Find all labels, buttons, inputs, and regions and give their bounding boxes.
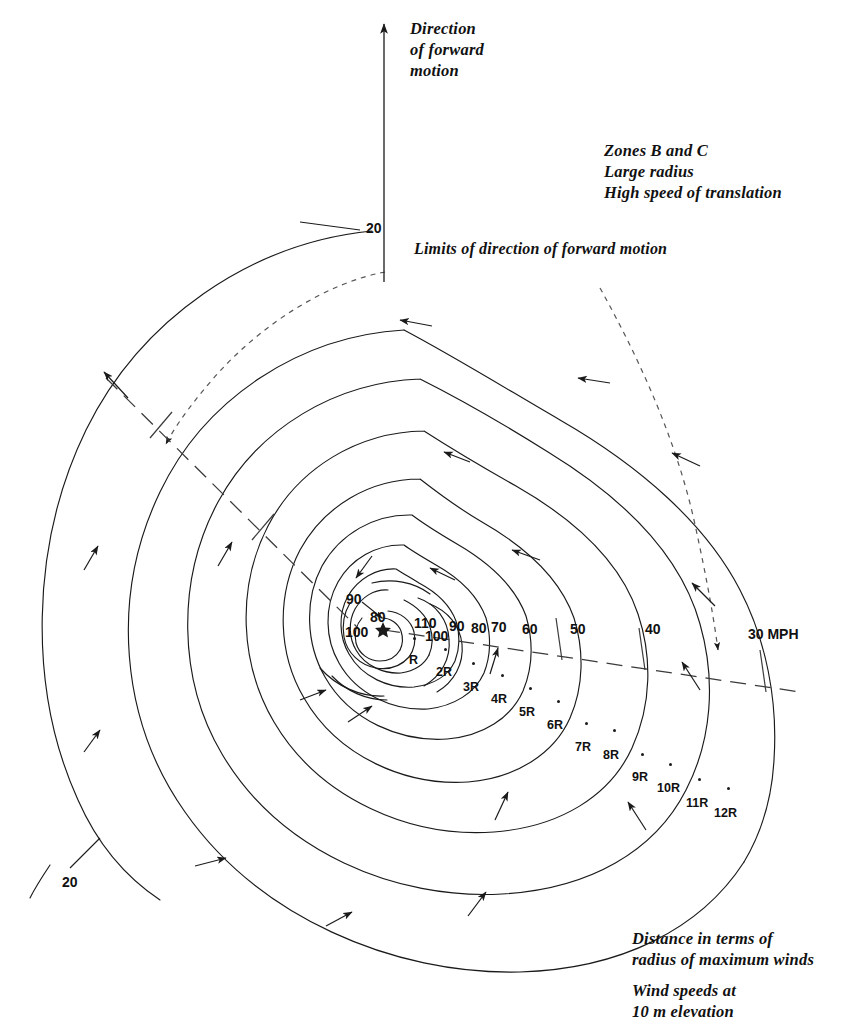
isotach-label: 70 xyxy=(491,619,507,635)
radius-label: 5R xyxy=(519,705,535,719)
radius-label: 7R xyxy=(575,740,591,754)
direction-of-motion-label: Direction of forward motion xyxy=(410,18,484,81)
radius-label: 12R xyxy=(714,806,737,820)
isotach-label: 20 xyxy=(366,220,382,236)
radius-label: 2R xyxy=(436,665,452,679)
dashline-upper-left xyxy=(106,378,360,630)
isotach-label: 50 xyxy=(570,621,586,637)
isotach-contours xyxy=(30,231,775,972)
radius-label: 11R xyxy=(686,796,708,810)
speed-caption: Wind speeds at 10 m elevation xyxy=(632,980,736,1022)
isotach-20b xyxy=(30,865,50,898)
radius-label: 4R xyxy=(491,692,507,706)
distance-caption: Distance in terms of radius of maximum w… xyxy=(632,928,814,970)
isotach-30 xyxy=(128,330,744,972)
spiral-hook-top xyxy=(372,581,430,594)
translation-axis-dashline xyxy=(106,378,800,692)
isotach-label: 100 xyxy=(425,628,448,644)
isotach-label: 90 xyxy=(346,591,362,607)
limits-dashed-curve xyxy=(166,272,718,650)
limits-label: Limits of direction of forward motion xyxy=(414,238,667,259)
figure-canvas: R2R3R4R5R6R7R8R9R10R11R12R 9080100110100… xyxy=(0,0,863,1029)
leader-20-top xyxy=(300,222,360,230)
isotach-label: 30 MPH xyxy=(748,626,799,642)
radius-label: 9R xyxy=(632,770,648,784)
isotach-label: 80 xyxy=(370,609,386,625)
radius-label: 6R xyxy=(547,718,563,732)
isotach-label: 20 xyxy=(62,874,78,890)
isotach-label: 90 xyxy=(449,618,465,634)
radius-label: R xyxy=(409,653,418,667)
radius-label: 8R xyxy=(603,748,619,762)
zone-block-label: Zones B and C Large radius High speed of… xyxy=(604,140,782,203)
wind-arrows xyxy=(84,320,715,926)
leader-20-bottom xyxy=(70,838,100,868)
radius-label: 3R xyxy=(463,680,479,694)
isotach-label: 40 xyxy=(645,621,661,637)
isotach-label: 60 xyxy=(522,621,538,637)
isotach-label: 80 xyxy=(471,620,487,636)
isotach-label: 100 xyxy=(345,624,368,640)
radius-label: 10R xyxy=(657,781,680,795)
